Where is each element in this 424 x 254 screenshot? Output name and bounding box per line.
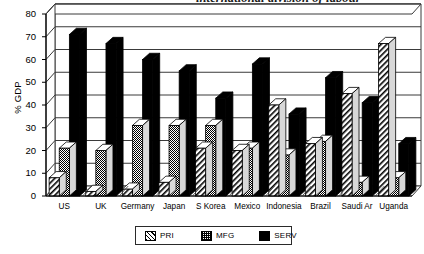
legend: PRI MFG SERV (135, 226, 292, 245)
legend-label-pri: PRI (160, 231, 174, 240)
bar (196, 142, 213, 196)
bar (305, 137, 322, 196)
bar-chart: international division of labour % GDP 0… (0, 0, 424, 254)
legend-swatch-mfg (201, 231, 212, 241)
legend-item-mfg: MFG (201, 227, 234, 244)
legend-item-pri: PRI (145, 227, 174, 244)
bar (49, 172, 66, 196)
legend-item-serv: SERV (259, 227, 296, 244)
bar (379, 37, 396, 196)
bar (342, 87, 359, 196)
legend-label-mfg: MFG (216, 231, 234, 240)
bar (232, 144, 249, 196)
legend-swatch-pri (145, 231, 156, 241)
x-tick-label: Uganda (366, 203, 422, 211)
legend-label-serv: SERV (274, 231, 296, 240)
plot-area (0, 0, 424, 254)
legend-swatch-serv (259, 231, 270, 241)
bar (269, 99, 286, 196)
